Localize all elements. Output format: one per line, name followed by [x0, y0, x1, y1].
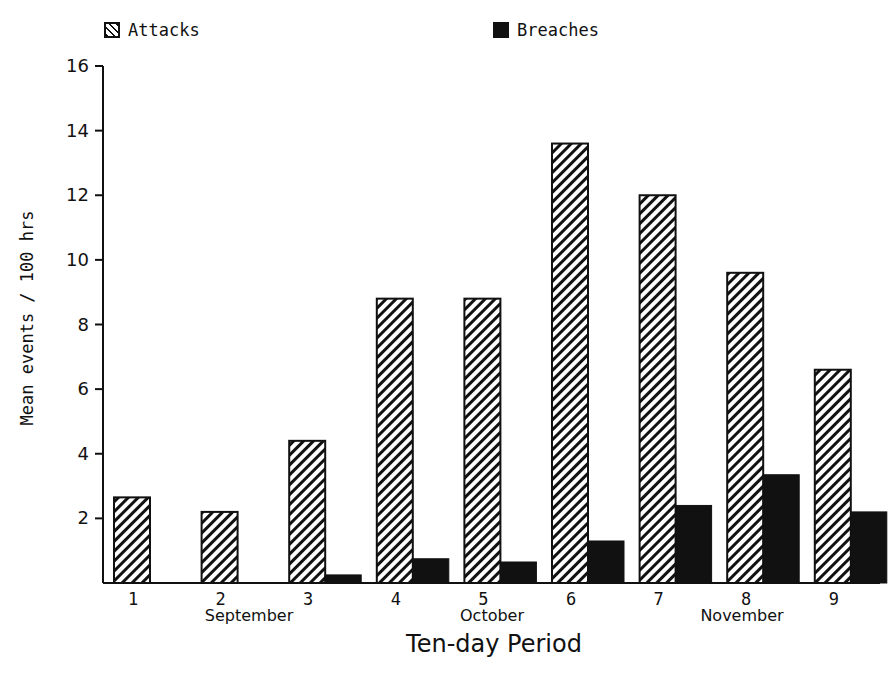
month-label-november: November: [700, 606, 783, 625]
y-tick-label: 14: [66, 120, 89, 141]
bar-attacks: [289, 441, 325, 583]
bar-breaches: [763, 475, 799, 583]
y-tick-label: 2: [78, 507, 89, 528]
bar-attacks: [377, 299, 413, 583]
bar-breaches: [588, 541, 624, 583]
y-tick-label: 12: [66, 184, 89, 205]
bar-attacks: [464, 299, 500, 583]
y-axis-label: Mean events / 100 hrs: [17, 211, 37, 426]
month-label-september: September: [205, 606, 293, 625]
x-axis-label: Ten-day Period: [406, 630, 582, 658]
bar-attacks: [202, 512, 238, 583]
y-tick-label: 6: [78, 378, 89, 399]
bar-breaches: [413, 559, 449, 583]
bar-attacks: [640, 195, 676, 583]
bar-chart: 123456789246810121416: [0, 0, 895, 675]
x-tick-label: 7: [653, 589, 663, 609]
month-label-october: October: [460, 606, 524, 625]
x-tick-label: 4: [391, 589, 401, 609]
y-tick-label: 4: [78, 443, 89, 464]
x-tick-label: 9: [829, 589, 839, 609]
bar-breaches: [851, 512, 887, 583]
bar-attacks: [727, 273, 763, 583]
bar-breaches: [500, 562, 536, 583]
bar-attacks: [552, 144, 588, 583]
x-tick-label: 6: [566, 589, 576, 609]
bar-attacks: [114, 497, 150, 583]
y-tick-label: 8: [78, 314, 89, 335]
x-tick-label: 3: [303, 589, 313, 609]
bar-breaches: [325, 575, 361, 583]
bars-group: [114, 144, 887, 583]
y-tick-label: 10: [66, 249, 89, 270]
x-tick-label: 1: [128, 589, 138, 609]
bar-breaches: [676, 505, 712, 583]
y-tick-label: 16: [66, 55, 89, 76]
bar-attacks: [815, 370, 851, 583]
